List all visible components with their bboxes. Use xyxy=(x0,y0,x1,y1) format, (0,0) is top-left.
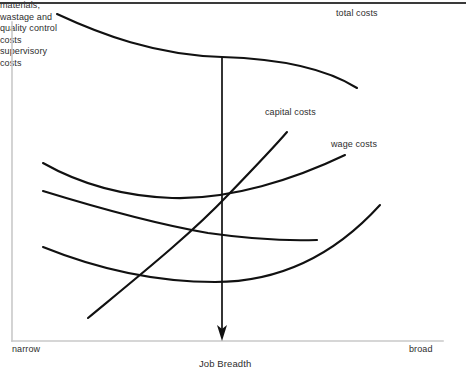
x-axis-tick-label-broad: broad xyxy=(409,344,433,356)
curve-wage-costs xyxy=(43,155,345,198)
plot-area xyxy=(0,0,466,375)
label-capital-costs: capital costs xyxy=(265,107,316,119)
x-axis-title: Job Breadth xyxy=(199,358,251,370)
curve-materials-costs xyxy=(43,205,380,282)
cost-curves-figure: total costs capital costs wage costs mat… xyxy=(0,0,466,375)
label-total-costs: total costs xyxy=(336,8,378,20)
x-axis-tick-label-narrow: narrow xyxy=(12,344,40,356)
curve-capital-costs xyxy=(88,132,287,318)
curve-total-costs xyxy=(57,14,357,88)
label-wage-costs: wage costs xyxy=(331,139,377,151)
